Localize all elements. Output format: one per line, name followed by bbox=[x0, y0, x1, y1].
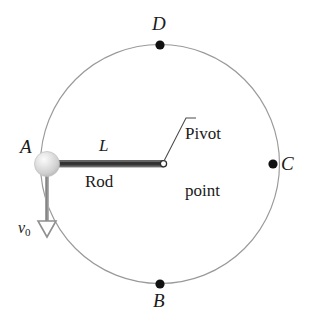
diagram-canvas bbox=[0, 0, 319, 326]
pivot-point-label: Pivot point bbox=[185, 86, 221, 238]
ball-at-point-a bbox=[35, 152, 60, 177]
physics-diagram-rod-in-circle: D C B A L Rod Pivot point v0 bbox=[0, 0, 319, 326]
point-label-d: D bbox=[152, 14, 166, 33]
velocity-arrow-head bbox=[38, 221, 56, 237]
point-label-b: B bbox=[153, 291, 165, 310]
velocity-arrow-shaft bbox=[45, 172, 49, 224]
point-dot-d bbox=[155, 40, 164, 49]
point-dot-b bbox=[155, 279, 164, 288]
point-label-a: A bbox=[20, 137, 32, 156]
point-label-c: C bbox=[281, 154, 294, 173]
rod-name-label: Rod bbox=[85, 173, 113, 190]
pivot-point-label-line1: Pivot bbox=[185, 124, 221, 143]
point-dot-c bbox=[268, 159, 277, 168]
velocity-label: v0 bbox=[18, 220, 31, 238]
rod-length-label: L bbox=[99, 137, 108, 154]
pivot-point-marker bbox=[160, 161, 166, 167]
velocity-subscript: 0 bbox=[25, 226, 31, 238]
pivot-point-label-line2: point bbox=[185, 181, 221, 200]
